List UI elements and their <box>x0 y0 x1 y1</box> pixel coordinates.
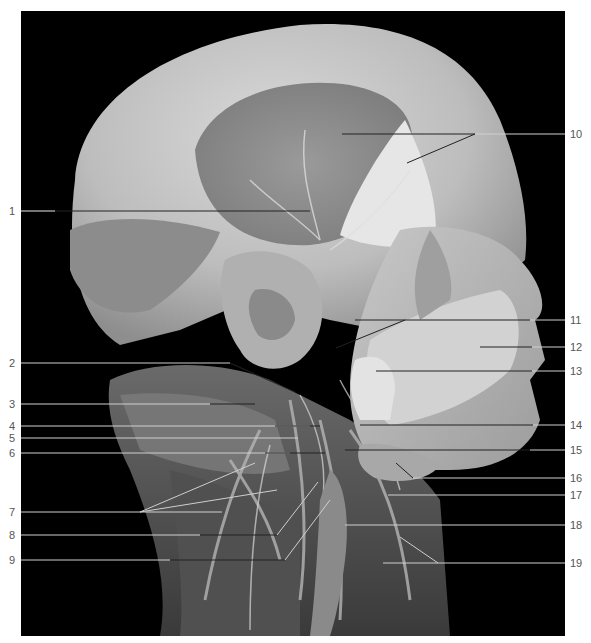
label-15: 15 <box>570 444 582 456</box>
anatomy-figure: 1 2 3 4 5 6 7 8 9 10 11 12 13 14 15 16 1… <box>0 0 591 643</box>
label-7: 7 <box>9 506 15 518</box>
label-8: 8 <box>9 529 15 541</box>
label-14: 14 <box>570 419 582 431</box>
label-4: 4 <box>9 420 15 432</box>
label-2: 2 <box>9 357 15 369</box>
label-19: 19 <box>570 557 582 569</box>
label-1: 1 <box>9 205 15 217</box>
label-10: 10 <box>570 128 582 140</box>
dissection-illustration <box>0 0 591 643</box>
label-13: 13 <box>570 365 582 377</box>
label-6: 6 <box>9 447 15 459</box>
label-9: 9 <box>9 554 15 566</box>
label-12: 12 <box>570 341 582 353</box>
label-16: 16 <box>570 472 582 484</box>
label-3: 3 <box>9 398 15 410</box>
label-5: 5 <box>9 432 15 444</box>
ear-region <box>221 251 322 368</box>
label-18: 18 <box>570 519 582 531</box>
label-17: 17 <box>570 489 582 501</box>
label-11: 11 <box>570 314 581 326</box>
